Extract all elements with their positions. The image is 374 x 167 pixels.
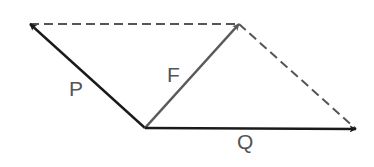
vector-q-arrow — [145, 128, 356, 129]
dashed-edge-right — [239, 24, 356, 129]
vector-p-arrow — [30, 24, 145, 128]
vector-f-resultant-arrow — [145, 24, 239, 128]
label-q: Q — [237, 130, 253, 153]
vector-parallelogram-diagram: P F Q — [0, 0, 374, 167]
label-p: P — [69, 77, 83, 100]
label-f: F — [167, 63, 180, 86]
